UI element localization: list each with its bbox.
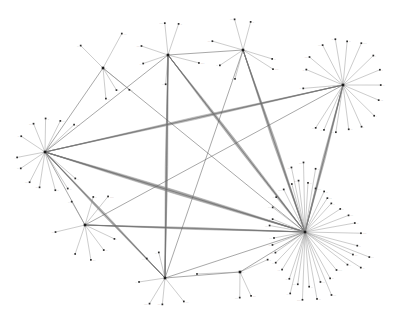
hub-spoke	[276, 197, 305, 232]
node-label: ▫▫▫▫	[317, 188, 321, 191]
hub-spoke	[85, 225, 104, 250]
graph-node	[275, 252, 277, 254]
node-label: ▫▫	[333, 203, 335, 206]
node-label: ▫▫▫▫	[110, 196, 114, 199]
graph-node	[80, 45, 82, 47]
hub-spoke	[282, 232, 305, 270]
node-label: ▫▫	[332, 277, 334, 280]
graph-node	[275, 196, 277, 198]
graph-node	[356, 245, 358, 247]
node-label: ▫▫	[359, 245, 361, 248]
node-label: ▫	[194, 273, 195, 276]
graph-node	[146, 258, 148, 260]
hub-spoke	[34, 124, 45, 152]
graph-node	[289, 293, 291, 295]
node-label: ▫▫	[312, 127, 314, 130]
hub-spoke	[306, 70, 343, 85]
hub-spoke	[316, 85, 343, 128]
hub-spoke	[305, 198, 327, 232]
graph-node	[305, 69, 307, 71]
node-label: ▫	[14, 157, 15, 160]
graph-node	[158, 252, 160, 254]
graph-node	[291, 167, 293, 169]
graph-node	[196, 273, 198, 275]
hub-spoke	[240, 260, 268, 272]
graph-node	[67, 188, 69, 190]
node-label: ▫▫	[108, 98, 110, 101]
graph-node	[320, 281, 322, 283]
graph-node	[303, 162, 305, 164]
node-label: ▫▫	[320, 129, 322, 132]
node-label: ▫▫	[231, 78, 233, 81]
hub-spoke	[243, 22, 251, 50]
hub-link	[168, 50, 243, 55]
hub-spoke	[165, 23, 168, 55]
graph-node	[360, 42, 362, 44]
node-label: ▫▫▫	[137, 45, 140, 48]
graph-node	[288, 278, 290, 280]
hub-link	[165, 272, 240, 278]
hub-spoke	[343, 41, 347, 85]
leaf-node-layer	[16, 18, 381, 305]
graph-node	[183, 301, 185, 303]
hub-spoke	[305, 232, 361, 233]
hub-spoke	[159, 252, 165, 278]
graph-node	[352, 254, 354, 256]
node-label: ▫▫▫	[331, 131, 334, 134]
hub-spoke	[85, 196, 108, 225]
hub-spoke	[85, 197, 93, 225]
node-label: ▫▫	[287, 293, 289, 296]
graph-node	[105, 98, 107, 100]
node-label: ▫▫▫	[29, 123, 32, 126]
node-label: ▫▫	[274, 58, 276, 61]
hub-spoke	[243, 50, 272, 59]
graph-node	[339, 208, 341, 210]
hub-spoke	[303, 85, 343, 88]
hub-spoke	[85, 225, 91, 260]
node-label: ▫	[363, 126, 364, 129]
graph-hub-node	[164, 277, 167, 280]
hub-spoke	[45, 125, 74, 152]
node-label: ▫▫▫▫	[363, 42, 367, 45]
graph-node	[272, 68, 274, 70]
graph-node	[269, 225, 271, 227]
node-label: ▫▫	[288, 183, 290, 186]
hub-spoke	[292, 184, 305, 232]
graph-node	[331, 294, 333, 296]
node-label: ▫▫▫	[265, 225, 268, 228]
node-label: ▫▫▫▫	[201, 62, 205, 65]
hub-spoke	[45, 121, 60, 152]
node-label: ▫▫▫▫	[76, 124, 80, 127]
node-label: ▫▫	[383, 84, 385, 87]
node-label: ▫▫	[357, 222, 359, 225]
hub-spoke	[343, 56, 373, 85]
graph-node	[323, 191, 325, 193]
graph-node	[361, 126, 363, 128]
hub-label: ▫▫	[170, 54, 172, 57]
graph-node	[272, 207, 274, 209]
graph-node	[348, 214, 350, 216]
graph-node	[302, 88, 304, 90]
hub-spoke	[243, 50, 273, 69]
graph-node	[272, 218, 274, 220]
node-label: ▫	[375, 55, 376, 58]
network-graph-canvas: ▫▫▫▫▫▫▫▫▫▫▫▫▫▫▫▫▫▫▫▫▫▫▫▫▫▫▫▫▫▫▫▫▫▫▫▫▫▫▫▫…	[0, 0, 398, 336]
graph-node	[162, 304, 164, 306]
node-label: ▫▫	[300, 87, 302, 90]
graph-hub-node	[84, 224, 87, 227]
graph-node	[165, 83, 167, 85]
hub-link	[305, 85, 343, 232]
hub-spoke	[103, 34, 122, 68]
hub-spoke	[72, 202, 85, 225]
hub-spoke	[305, 232, 357, 246]
graph-node	[107, 196, 109, 198]
hub-label: ▫▫	[242, 271, 244, 274]
hub-label: ▫▫	[307, 231, 309, 234]
node-label: ▫▫	[326, 191, 328, 194]
node-label: ▫▫	[140, 63, 142, 66]
graph-hub-node	[167, 54, 170, 57]
hub-label: ▫▫	[167, 277, 169, 280]
graph-node	[73, 124, 75, 126]
node-label: ▫	[382, 69, 383, 72]
graph-node	[198, 62, 200, 64]
